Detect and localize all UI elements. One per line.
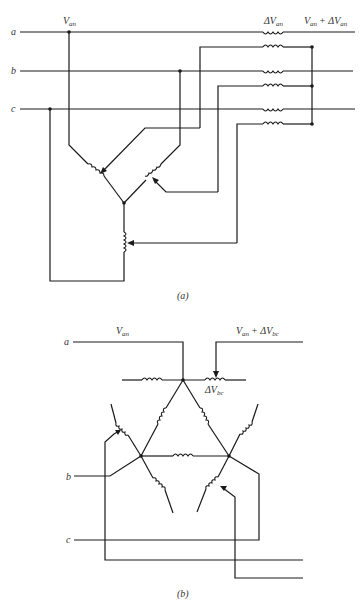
delta-coil-right [200, 408, 209, 424]
delta-van-label: ΔVan [263, 15, 283, 28]
diagram-canvas: a b c Van ΔVan Van+ ΔVan [0, 0, 364, 600]
delta-coil-left [157, 408, 166, 424]
van-label: Van [63, 15, 77, 28]
caption-b: (b) [177, 588, 189, 600]
ext-coil-right-lower [206, 477, 218, 489]
output-voltage-label: Van+ ΔVbc [236, 325, 280, 338]
van-label: Van [116, 325, 130, 338]
caption-a: (a) [177, 290, 189, 302]
line-label-c: c [11, 103, 16, 114]
exciting-coil-b [263, 84, 283, 86]
line-label-a: a [64, 336, 69, 347]
output-voltage-label: Van+ ΔVan [304, 15, 348, 28]
figure-a: a b c Van ΔVan Van+ ΔVan [11, 15, 355, 302]
wye-coil-a [88, 164, 104, 176]
series-coil-b [263, 71, 283, 73]
figure-b: a b c Van Van+ ΔVbc ΔVbc [64, 325, 303, 600]
top-coil-right [205, 378, 225, 380]
line-label-b: b [66, 471, 71, 482]
tap-arrow-b [152, 177, 159, 184]
series-coil-a [263, 32, 283, 34]
tap-arrow-top [213, 371, 219, 378]
top-coil-left [142, 378, 162, 380]
tap-arrow-c [127, 240, 134, 246]
delta-vbc-label: ΔVbc [204, 384, 224, 397]
ext-coil-right-upper [240, 422, 252, 434]
ext-coil-left-lower [153, 478, 165, 490]
line-label-b: b [11, 65, 16, 76]
exciting-coil-c [263, 122, 283, 124]
line-label-a: a [11, 26, 16, 37]
exciting-coil-a [263, 45, 283, 47]
delta-coil-bottom [173, 454, 193, 456]
series-coil-c [263, 109, 283, 111]
line-label-c: c [66, 534, 71, 545]
wye-coil-c [124, 232, 126, 252]
wye-coil-b [145, 164, 161, 176]
